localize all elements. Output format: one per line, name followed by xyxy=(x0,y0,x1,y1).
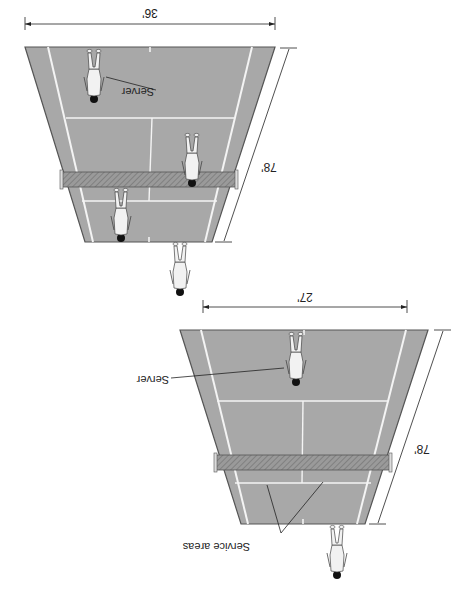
length-label: 78' xyxy=(261,160,277,174)
tennis-court-diagram: 36' 78' Server xyxy=(0,0,474,595)
net xyxy=(216,455,390,470)
width-label: 27' xyxy=(297,290,313,304)
server-label: Server xyxy=(136,374,169,386)
width-dimension: 36' xyxy=(25,6,275,30)
receiver-player xyxy=(327,525,347,579)
doubles-court: 36' 78' Server xyxy=(25,6,297,296)
service-areas-label: Service areas xyxy=(182,541,250,553)
width-label: 36' xyxy=(142,6,158,20)
width-dimension: 27' xyxy=(203,290,407,313)
singles-court: 27' 78' Server Service areas xyxy=(136,290,451,579)
length-label: 78' xyxy=(414,442,430,456)
rotated-figure: 36' 78' Server xyxy=(25,6,451,579)
receiver-player xyxy=(170,242,190,296)
net xyxy=(62,172,236,187)
court-surface xyxy=(180,330,428,524)
court-surface xyxy=(25,47,275,242)
